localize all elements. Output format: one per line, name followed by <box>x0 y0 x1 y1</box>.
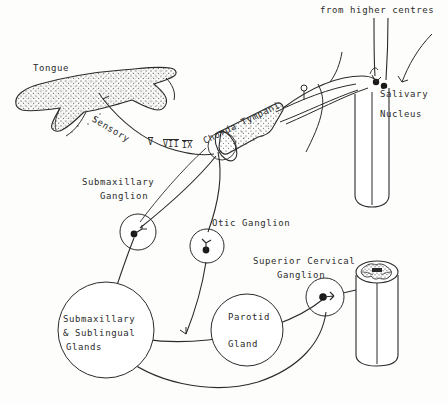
brainstem-cylinder <box>355 34 432 207</box>
parotid-gland-label-line1: Parotid <box>228 311 270 323</box>
superior-cervical-ganglion-marker <box>306 278 344 316</box>
spinal-cord-cylinder <box>330 261 398 366</box>
cranial-nerve-vii-label: VII <box>163 140 179 149</box>
otic-ganglion-label: Otic Ganglion <box>212 217 290 229</box>
submaxillary-ganglion-label-line2: Ganglion <box>100 190 148 202</box>
superior-cervical-ganglion-label-line1: Superior Cervical <box>253 255 355 267</box>
from-higher-centres-label: from higher centres <box>320 4 434 16</box>
cranial-nerve-v-label: V <box>148 138 153 147</box>
salivary-nucleus-label-line1: Salivary <box>380 88 428 100</box>
salivary-nucleus-label-line2: Nucleus <box>380 108 422 120</box>
submaxillary-sublingual-label-line3: Glands <box>66 341 102 353</box>
superior-cervical-ganglion-label-line2: Ganglion <box>277 269 325 281</box>
submaxillary-ganglion-label-line1: Submaxillary <box>82 176 154 188</box>
cranial-nerve-ix-label: IX <box>182 141 193 150</box>
parotid-gland-circle <box>211 294 283 366</box>
parotid-gland-label-line2: Gland <box>228 338 258 350</box>
tongue-label: Tongue <box>33 62 69 74</box>
submaxillary-sublingual-label-line2: & Sublingual <box>63 327 135 339</box>
diagram-canvas: Tongue Sensory V VII IX Chorda Tympani f… <box>0 0 448 403</box>
fibers-from-higher-centres <box>370 18 388 80</box>
submaxillary-sublingual-label-line1: Submaxillary <box>63 313 135 325</box>
otic-ganglion-marker <box>190 229 224 263</box>
